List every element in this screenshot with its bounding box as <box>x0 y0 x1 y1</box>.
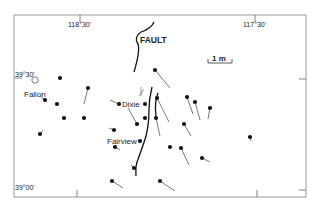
station-dot <box>208 106 212 110</box>
station-marker <box>58 76 62 80</box>
station-dot <box>153 68 157 72</box>
station-tail <box>157 98 169 122</box>
station-dot <box>132 166 136 170</box>
station-marker <box>62 116 66 120</box>
scale-bar: 1 m <box>208 54 232 63</box>
station-dot <box>55 102 59 106</box>
station-tail <box>84 88 88 104</box>
place-label-dixie: Dixie <box>122 100 140 109</box>
station-dot <box>117 102 121 106</box>
station-tail <box>181 148 189 165</box>
station-dot <box>168 145 172 149</box>
station-marker <box>248 135 252 141</box>
station-marker <box>182 122 191 136</box>
station-dot <box>248 135 252 139</box>
fault-map: 118°30' 117°30' 39°30' 39°00' 1 m FAULT … <box>0 0 319 206</box>
station-dot <box>154 116 158 120</box>
fault-label: FAULT <box>140 35 168 45</box>
latitude-label-39-30: 39°30' <box>15 71 35 78</box>
station-dot <box>155 96 159 100</box>
station-dot <box>62 116 66 120</box>
station-tail <box>187 97 193 114</box>
station-marker <box>128 108 139 126</box>
longitude-label-118-30: 118°30' <box>68 21 91 28</box>
station-dot <box>200 156 204 160</box>
station-marker <box>131 165 136 170</box>
station-marker <box>153 68 170 88</box>
station-dot <box>182 122 186 126</box>
station-marker <box>168 145 172 149</box>
station-marker <box>109 128 116 132</box>
station-dot <box>193 100 197 104</box>
station-marker <box>185 95 193 114</box>
place-label-fairview: Fairview <box>107 137 137 146</box>
station-dot <box>113 145 117 149</box>
station-marker <box>110 179 123 188</box>
scale-label: 1 m <box>212 54 226 63</box>
station-dot <box>179 146 183 150</box>
station-dot <box>82 116 86 120</box>
station-marker <box>82 116 86 120</box>
fairview-station-marker <box>138 139 142 143</box>
station-marker <box>158 179 175 191</box>
station-marker <box>84 86 90 104</box>
station-dot <box>38 132 42 136</box>
fault-trace-north <box>134 22 154 72</box>
station-dot <box>110 179 114 183</box>
station-marker <box>208 106 212 119</box>
station-marker <box>154 116 160 136</box>
station-dot <box>185 95 189 99</box>
station-marker <box>38 130 43 136</box>
station-dot <box>43 98 47 102</box>
station-marker <box>55 102 59 106</box>
dixie-station-marker <box>143 102 147 106</box>
station-dot <box>58 76 62 80</box>
station-tail <box>128 108 137 124</box>
longitude-label-117-30: 117°30' <box>243 21 266 28</box>
tick-mark <box>139 89 144 96</box>
station-dot <box>86 86 90 90</box>
station-tail <box>155 70 170 88</box>
station-tail <box>160 181 175 191</box>
station-dot <box>135 122 139 126</box>
station-dot <box>112 128 116 132</box>
station-tail <box>195 102 200 120</box>
latitude-label-39-00: 39°00' <box>15 184 35 191</box>
station-marker <box>110 100 121 106</box>
station-marker <box>179 146 189 165</box>
station-dot <box>158 179 162 183</box>
fallon-town-marker <box>32 77 38 83</box>
station-marker <box>193 100 200 120</box>
station-marker <box>143 116 147 120</box>
station-dot <box>143 116 147 120</box>
station-marker <box>200 156 210 162</box>
station-markers <box>38 68 252 191</box>
station-tail <box>156 118 160 136</box>
